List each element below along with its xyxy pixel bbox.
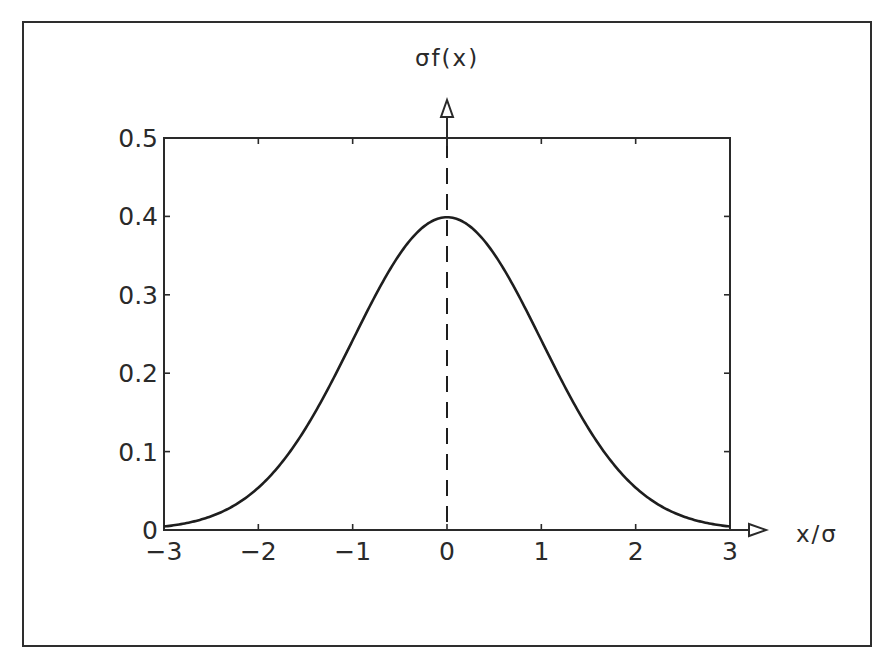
figure: −3−2−1012300.10.20.30.40.5 σf(x) x/σ [0,0,889,668]
y-axis-label: σf(x) [415,45,479,71]
y-tick-label: 0.1 [118,438,158,467]
y-tick-label: 0.4 [118,202,158,231]
x-tick-label: −1 [334,537,371,566]
x-tick-label: 0 [439,537,455,566]
y-axis-arrowhead-icon [441,100,453,117]
x-tick-label: 1 [533,537,549,566]
tick-labels: −3−2−1012300.10.20.30.40.5 [118,124,738,566]
x-tick-label: 2 [628,537,644,566]
y-tick-label: 0.5 [118,124,158,153]
y-tick-label: 0.2 [118,359,158,388]
x-axis-arrowhead-icon [749,524,766,536]
x-axis-label: x/σ [796,521,838,547]
y-tick-label: 0 [142,516,158,545]
y-tick-label: 0.3 [118,281,158,310]
chart-canvas: −3−2−1012300.10.20.30.40.5 σf(x) x/σ [0,0,889,668]
x-tick-label: −2 [240,537,277,566]
x-tick-label: 3 [722,537,738,566]
